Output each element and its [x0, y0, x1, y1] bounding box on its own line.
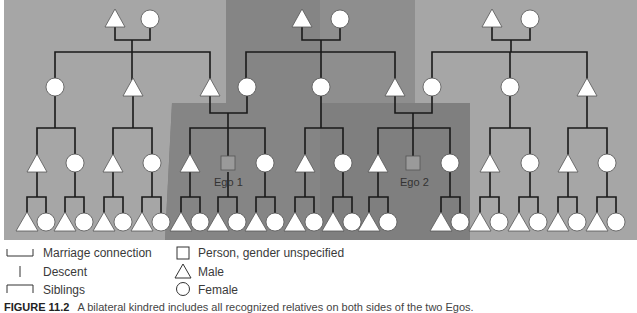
triangle-icon — [174, 263, 192, 279]
legend-label-marriage: Marriage connection — [43, 246, 152, 260]
siblings-icon — [6, 284, 34, 294]
descent-icon — [18, 266, 22, 278]
female-icon — [152, 213, 170, 231]
female-icon — [331, 10, 349, 28]
figure-caption: FIGURE 11.2A bilateral kindred includes … — [4, 301, 474, 313]
legend-label-female: Female — [198, 283, 238, 297]
female-icon — [423, 78, 441, 96]
female-icon — [37, 213, 55, 231]
female-icon — [343, 213, 361, 231]
female-icon — [141, 10, 159, 28]
female-icon — [238, 78, 256, 96]
female-icon — [529, 213, 547, 231]
female-icon — [451, 213, 469, 231]
square-icon — [176, 246, 190, 260]
ego1-square-icon — [221, 156, 235, 170]
ego2-label: Ego 2 — [400, 176, 429, 188]
marriage-connection-icon — [6, 248, 34, 258]
caption-text: A bilateral kindred includes all recogni… — [77, 301, 473, 313]
female-icon — [379, 213, 397, 231]
female-icon — [75, 213, 93, 231]
female-icon — [441, 154, 459, 172]
female-icon — [191, 213, 209, 231]
female-icon — [501, 78, 519, 96]
figure-number: FIGURE 11.2 — [4, 301, 69, 313]
female-icon — [305, 213, 323, 231]
kinship-diagram: Ego 1 Ego 2 — [0, 0, 637, 242]
legend-label-unspecified: Person, gender unspecified — [198, 246, 344, 260]
female-icon — [66, 154, 84, 172]
female-icon — [143, 154, 161, 172]
female-icon — [228, 213, 246, 231]
ego2-square-icon — [406, 156, 420, 170]
female-icon — [312, 78, 330, 96]
female-icon — [521, 154, 539, 172]
female-icon — [114, 213, 132, 231]
female-icon — [266, 213, 284, 231]
female-icon — [256, 154, 274, 172]
female-icon — [521, 10, 539, 28]
legend-label-descent: Descent — [43, 265, 87, 279]
legend-label-siblings: Siblings — [43, 283, 85, 297]
legend-label-male: Male — [198, 265, 224, 279]
female-icon — [46, 78, 64, 96]
circle-icon — [175, 281, 191, 297]
female-icon — [490, 213, 508, 231]
ego1-label: Ego 1 — [214, 176, 243, 188]
female-icon — [334, 154, 352, 172]
female-icon — [607, 213, 625, 231]
female-icon — [598, 154, 616, 172]
female-icon — [568, 213, 586, 231]
